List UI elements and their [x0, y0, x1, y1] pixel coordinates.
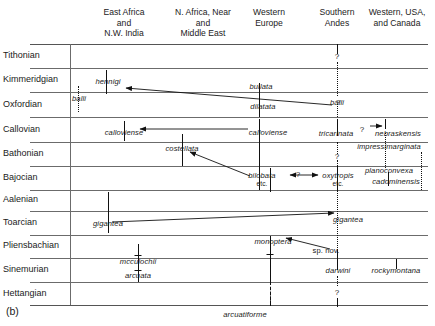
taxon-label-nebraskensis: nebraskensis: [375, 130, 421, 139]
column-header-western-usa: Western, USA, and Canada: [355, 7, 435, 28]
taxon-label-gigantea-east-africa: gigantea: [93, 220, 123, 229]
taxon-label-dilatata: dilatata: [250, 103, 275, 112]
stage-column-divider: [70, 44, 71, 305]
column-header-n-africa: N. Africa, Near and Middle East: [160, 7, 246, 39]
taxon-label-impressimarginata: impressimarginata: [357, 143, 421, 152]
range-bar-cadominensis: [421, 152, 422, 190]
grid-line-kimmeridgian: [30, 92, 428, 93]
uncertainty-mark-bajocian-middle: ?: [296, 170, 300, 179]
range-bar-andes-hettangian-tail: [337, 298, 338, 307]
stage-label-kimmeridgian: Kimmeridgian: [3, 74, 58, 85]
grid-line-pliensbachian: [30, 258, 428, 259]
taxon-label-gigantea-western-europe: gigantea: [333, 216, 363, 225]
stratigraphic-range-chart: East Africa and N.W. India N. Africa, Ne…: [0, 0, 435, 326]
grid-line-aalenian: [30, 211, 428, 212]
stage-label-hettangian: Hettangian: [3, 288, 47, 299]
range-bar-nebraskensis: [385, 119, 386, 129]
stage-label-bajocian: Bajocian: [3, 172, 38, 183]
correlation-arrows: [0, 0, 435, 326]
grid-line-tithonian: [30, 68, 428, 69]
stage-label-toarcian: Toarcian: [3, 217, 37, 228]
stage-label-pliensbachian: Pliensbachian: [3, 240, 59, 251]
range-bar-andes-hettangian-dotted: [337, 276, 338, 286]
arrow-gigantea-eastward: [112, 213, 334, 222]
taxon-label-hennigi: hennigi: [95, 78, 120, 87]
taxon-label-darwini: darwini: [326, 267, 351, 276]
tick-mcculochii: [135, 255, 142, 256]
stage-label-tithonian: Tithonian: [3, 50, 40, 61]
taxon-label-etc-southern-andes: etc.: [332, 180, 343, 189]
stage-label-callovian: Callovian: [3, 124, 40, 135]
taxon-label-rockymontana: rockymontana: [372, 267, 421, 276]
taxon-label-calloviense-western-europe: calloviense: [249, 129, 288, 138]
taxon-label-costellata: costellata: [165, 145, 198, 154]
taxon-label-etc-western-europe: etc.: [256, 180, 267, 189]
taxon-label-calloviense-east-africa: calloviense: [105, 129, 144, 138]
grid-line-top: [30, 44, 428, 45]
stage-label-aalenian: Aalenian: [3, 194, 38, 205]
taxon-label-sp-nov: sp. nov.: [313, 247, 340, 256]
arrow-bilobata-to-costellata: [190, 152, 250, 176]
uncertainty-mark-oxfordian-arrow: ?: [336, 98, 340, 107]
taxon-label-tricarinata: tricarinata: [319, 130, 353, 139]
tick-monoptera: [267, 254, 274, 255]
taxon-label-cadominensis: cadominensis: [372, 178, 420, 187]
taxon-label-planoconvexa: planoconvexa: [365, 167, 413, 176]
range-bar-arcuatiforme-upper: [270, 282, 271, 304]
grid-line-bajocian: [30, 190, 428, 191]
uncertainty-mark-hettangian-andes: ?: [335, 288, 339, 297]
grid-line-sinemurian: [30, 282, 428, 283]
range-bar-balli-southern-andes: [337, 62, 338, 96]
column-header-east-africa: East Africa and N.W. India: [84, 7, 164, 39]
figure-caption: (b): [6, 305, 19, 317]
taxon-label-monoptera: monoptera: [254, 238, 291, 247]
uncertainty-mark-bathonian-andes: ?: [335, 152, 339, 161]
uncertainty-mark-tithonian-andes: ?: [335, 52, 339, 61]
stage-label-oxfordian: Oxfordian: [3, 99, 42, 110]
uncertainty-mark-callovian-tricarinata: ?: [360, 125, 364, 134]
taxon-label-bullata: bullata: [249, 83, 272, 92]
taxon-label-arcuata: arcuata: [125, 272, 151, 281]
grid-line-toarcian: [30, 235, 428, 236]
column-header-western-europe: Western Europe: [238, 7, 300, 28]
taxon-label-balli-east-africa: balli: [72, 95, 86, 104]
grid-line-bottom: [30, 305, 428, 306]
taxon-label-arcuatiforme: arcuatiforme: [223, 311, 266, 320]
grid-line-oxfordian: [30, 117, 428, 118]
arrow-balli-to-hennigi: [126, 88, 332, 105]
taxon-label-mcculochii: mcculochii: [120, 258, 156, 267]
stage-label-sinemurian: Sinemurian: [3, 264, 49, 275]
stage-label-bathonian: Bathonian: [3, 148, 44, 159]
